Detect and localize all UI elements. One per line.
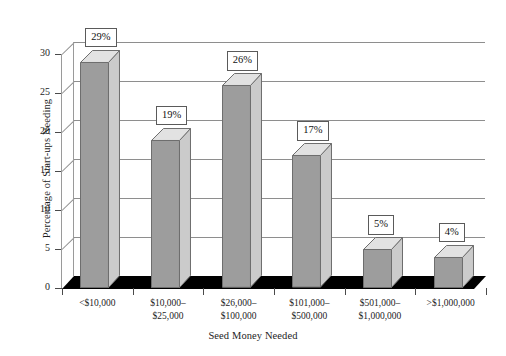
bar-column[interactable]: [292, 143, 332, 288]
bar-front-face: [222, 86, 250, 288]
bar-3d-shape: [434, 245, 474, 288]
bar-front-face: [364, 250, 392, 288]
y-axis-front-line: [61, 54, 62, 288]
category-label-line1: <$10,000: [79, 298, 115, 308]
bar-3d-shape: [151, 128, 191, 288]
category-label-line1: $501,000–: [360, 298, 400, 308]
x-axis-category-label: >$1,000,000: [401, 297, 500, 310]
x-axis-tick: [415, 288, 416, 295]
x-axis-tick: [62, 288, 63, 295]
bar-column[interactable]: [434, 245, 474, 288]
bar-column[interactable]: [151, 128, 191, 288]
bar-value-label: 19%: [156, 106, 187, 126]
bar-3d-shape: [363, 237, 403, 288]
x-axis-title: Seed Money Needed: [0, 330, 506, 341]
bar-column[interactable]: [363, 237, 403, 288]
bar-column[interactable]: [222, 73, 262, 288]
bar-side-face: [179, 128, 190, 287]
x-axis-tick: [203, 288, 204, 295]
bar-front-face: [293, 156, 321, 288]
bar-value-label: 29%: [85, 28, 116, 48]
category-label-line1: $10,000–: [150, 298, 186, 308]
category-label-line2: $1,000,000: [331, 310, 430, 323]
bar-side-face: [250, 74, 261, 288]
bar-value-label: 26%: [227, 51, 258, 71]
bar-side-face: [109, 50, 120, 287]
gridline: [73, 81, 485, 82]
bar-3d-shape: [222, 73, 262, 288]
category-label-line1: $26,000–: [221, 298, 257, 308]
gridline: [73, 237, 485, 238]
y-axis-tick: [55, 288, 62, 289]
y-axis-title: Percentage of Start-ups Needing: [41, 29, 52, 309]
gridline: [73, 120, 485, 121]
bar-value-label: 4%: [439, 223, 465, 243]
category-label-line1: >$1,000,000: [427, 298, 475, 308]
gridline: [73, 159, 485, 160]
x-axis-tick: [274, 288, 275, 295]
gridline: [73, 42, 485, 43]
y-axis-back-line: [73, 42, 74, 276]
bar-value-label: 5%: [368, 215, 394, 235]
bar-column[interactable]: [80, 50, 120, 288]
gridline: [73, 198, 485, 199]
bar-front-face: [434, 257, 462, 287]
plot-area: 051015202530 29%19%26%17%5%4% <$10,000$1…: [0, 0, 506, 356]
x-axis-tick: [486, 288, 487, 295]
bar-front-face: [152, 140, 180, 287]
bar-side-face: [321, 144, 332, 288]
x-axis-tick: [345, 288, 346, 295]
bar-3d-shape: [80, 50, 120, 288]
category-label-line1: $101,000–: [289, 298, 329, 308]
bar-front-face: [81, 62, 109, 287]
bar-value-label: 17%: [297, 121, 328, 141]
x-axis-tick: [133, 288, 134, 295]
chart-figure: 051015202530 29%19%26%17%5%4% <$10,000$1…: [0, 0, 506, 356]
bar-3d-shape: [292, 143, 332, 288]
